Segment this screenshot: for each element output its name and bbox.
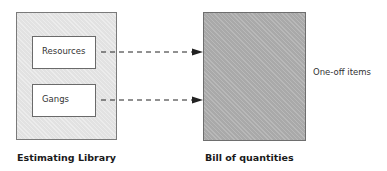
arrow-gangs-to-boq [101,97,203,104]
arrow-resources-to-boq [101,49,203,56]
one-off-items-label: One-off items [313,67,371,77]
bill-of-quantities-caption: Bill of quantities [205,152,294,163]
arrowhead-icon [192,49,203,56]
arrowhead-icon [192,97,203,104]
estimating-library-caption: Estimating Library [17,152,116,163]
connector-arrows [0,0,387,171]
